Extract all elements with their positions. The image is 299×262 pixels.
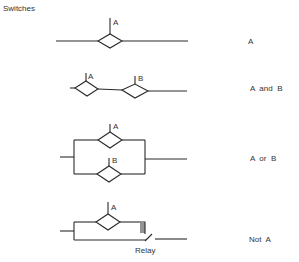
switch-a-diamond — [75, 81, 98, 96]
relay-contact-switch — [145, 234, 152, 241]
logic-label-not-a: Not A — [249, 235, 271, 244]
switch-b-label: B — [138, 74, 143, 83]
switch-b-diamond — [122, 84, 148, 98]
logic-label-a: A — [248, 37, 254, 46]
switch-a-label: A — [88, 72, 94, 81]
relay-coil-icon — [140, 222, 145, 234]
logic-label-a-and-b: A and B — [250, 84, 282, 93]
switch-b-diamond — [97, 166, 121, 182]
switch-a-label: A — [113, 18, 119, 27]
series-wire — [98, 89, 122, 90]
circuit-a: A — [56, 18, 188, 48]
switch-a-label: A — [111, 203, 117, 212]
circuit-a-or-b: A B — [60, 122, 187, 182]
switch-a-diamond — [98, 132, 122, 148]
relay-label: Relay — [135, 246, 155, 255]
diagram-title: Switches — [3, 4, 35, 13]
circuit-a-and-b: A B — [70, 72, 187, 98]
switch-a-label: A — [113, 122, 119, 131]
switch-b-label: B — [112, 156, 117, 165]
switch-a-diamond — [98, 34, 122, 48]
logic-label-a-or-b: A or B — [250, 154, 276, 163]
switch-logic-diagram: Switches A A B A B — [0, 0, 299, 262]
circuit-not-a: A Relay — [60, 202, 187, 255]
switch-a-diamond — [96, 214, 120, 230]
